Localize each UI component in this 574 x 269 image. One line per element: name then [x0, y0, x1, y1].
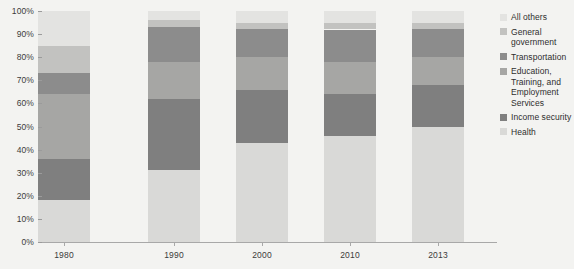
legend-item[interactable]: General government [500, 27, 574, 48]
plot-area [43, 11, 497, 242]
x-axis-tick-label: 1990 [164, 250, 184, 260]
legend-swatch-icon [500, 114, 507, 121]
bar-stack [324, 11, 376, 242]
legend-item[interactable]: Income security [500, 112, 574, 123]
x-axis-line [42, 242, 497, 243]
x-axis-tick-mark [64, 242, 65, 246]
y-axis: 0%10%20%30%40%50%60%70%80%90%100% [0, 0, 38, 250]
bar-segment [236, 23, 288, 30]
y-axis-tick-label: 30% [17, 168, 34, 177]
x-axis-tick-mark [438, 242, 439, 246]
y-axis-tick-label: 80% [17, 53, 34, 62]
y-axis-tick-mark [38, 11, 42, 12]
y-axis-tick-label: 50% [17, 122, 34, 131]
bar-segment [38, 11, 90, 46]
y-axis-tick-mark [38, 80, 42, 81]
y-axis-tick-label: 100% [12, 7, 34, 16]
x-axis-tick-label: 2010 [340, 250, 360, 260]
bar-segment [236, 29, 288, 57]
y-axis-tick-mark [38, 242, 42, 243]
x-axis-tick-mark [262, 242, 263, 246]
legend-swatch-icon [500, 53, 507, 60]
y-axis-tick-mark [38, 173, 42, 174]
x-axis-tick-label: 2013 [428, 250, 448, 260]
x-axis-tick-mark [174, 242, 175, 246]
bar-segment [236, 57, 288, 89]
bar-segment [324, 136, 376, 242]
chart-legend: All othersGeneral governmentTransportati… [500, 12, 574, 141]
bar-group [412, 11, 464, 242]
bar-segment [148, 27, 200, 62]
legend-swatch-icon [500, 128, 507, 135]
bar-segment [324, 30, 376, 62]
bar-segment [324, 23, 376, 30]
bar-segment [324, 94, 376, 136]
bar-segment [148, 99, 200, 171]
bar-segment [412, 57, 464, 85]
bar-segment [324, 62, 376, 94]
x-axis-tick-label: 1980 [54, 250, 74, 260]
bar-segment [412, 127, 464, 243]
y-axis-tick-label: 60% [17, 99, 34, 108]
bar-group [324, 11, 376, 242]
y-axis-tick-label: 0% [22, 238, 35, 247]
legend-item[interactable]: Health [500, 127, 574, 138]
legend-swatch-icon [500, 68, 507, 75]
bar-stack [38, 11, 90, 242]
bar-segment [38, 200, 90, 242]
bar-segment [412, 29, 464, 57]
x-axis-tick-mark [350, 242, 351, 246]
legend-swatch-icon [500, 14, 507, 21]
bar-segment [324, 11, 376, 23]
bar-segment [148, 62, 200, 99]
legend-item-label: Health [511, 127, 536, 138]
y-axis-tick-mark [38, 34, 42, 35]
bar-segment [236, 11, 288, 23]
y-axis-tick-mark [38, 219, 42, 220]
bar-segment [412, 23, 464, 30]
y-axis-tick-label: 90% [17, 30, 34, 39]
legend-item-label: Income security [511, 112, 571, 123]
y-axis-tick-mark [38, 150, 42, 151]
legend-swatch-icon [500, 28, 507, 35]
bar-segment [148, 11, 200, 20]
y-axis-tick-mark [38, 127, 42, 128]
legend-item-label: Education, Training, and Employment Serv… [511, 66, 574, 108]
x-axis-tick-label: 2000 [252, 250, 272, 260]
bar-segment [412, 85, 464, 127]
y-axis-tick-label: 40% [17, 145, 34, 154]
legend-item[interactable]: Education, Training, and Employment Serv… [500, 66, 574, 108]
y-axis-tick-label: 10% [17, 215, 34, 224]
stacked-bar-chart: 0%10%20%30%40%50%60%70%80%90%100% All ot… [0, 0, 574, 269]
bar-segment [148, 170, 200, 242]
bar-segment [38, 159, 90, 201]
y-axis-tick-mark [38, 57, 42, 58]
bar-group [38, 11, 90, 242]
legend-item-label: Transportation [511, 52, 566, 63]
bar-stack [412, 11, 464, 242]
bar-stack [236, 11, 288, 242]
bar-segment [236, 143, 288, 242]
y-axis-tick-label: 20% [17, 192, 34, 201]
bar-group [236, 11, 288, 242]
bar-segment [38, 94, 90, 159]
y-axis-tick-label: 70% [17, 76, 34, 85]
bar-segment [412, 11, 464, 23]
bar-segment [38, 73, 90, 94]
bar-segment [148, 20, 200, 27]
legend-item[interactable]: All others [500, 12, 574, 23]
bar-segment [38, 46, 90, 74]
y-axis-tick-mark [38, 103, 42, 104]
bar-segment [236, 90, 288, 143]
legend-item-label: All others [511, 12, 547, 23]
y-axis-tick-mark [38, 196, 42, 197]
bar-group [148, 11, 200, 242]
legend-item[interactable]: Transportation [500, 52, 574, 63]
bar-stack [148, 11, 200, 242]
legend-item-label: General government [511, 27, 574, 48]
